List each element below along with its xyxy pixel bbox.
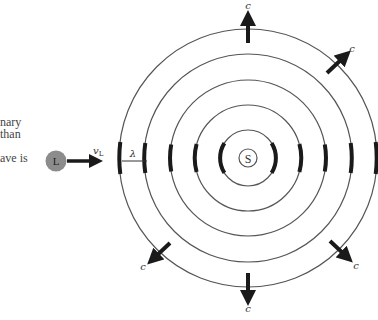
crest-left-4 xyxy=(144,143,145,173)
crest-right-4 xyxy=(351,143,352,173)
arrow-down-left xyxy=(153,243,170,259)
crest-right-1 xyxy=(272,143,276,173)
crest-right-5 xyxy=(376,142,377,174)
crest-left-1 xyxy=(220,143,224,173)
wave-speed-label-up-right: c xyxy=(349,43,355,54)
wave-speed-label-up: c xyxy=(245,0,251,11)
velocity-subscript: L xyxy=(99,150,104,158)
crest-left-3 xyxy=(170,145,171,172)
crest-left-5 xyxy=(119,142,120,174)
listener-label: L xyxy=(53,155,60,167)
wavelength-label: λ xyxy=(129,148,136,159)
wave-speed-label-down: c xyxy=(245,303,251,314)
wave-speed-label-down-left: c xyxy=(140,261,146,272)
crest-left-2 xyxy=(195,144,197,172)
wave-speed-label-down-right: c xyxy=(353,260,359,271)
source-label: S xyxy=(245,152,252,166)
listener-velocity-label: vL xyxy=(93,145,104,158)
crest-right-2 xyxy=(299,144,301,172)
crest-right-3 xyxy=(325,145,326,172)
doppler-diagram: S λ c c c c c L vL xyxy=(0,0,378,320)
